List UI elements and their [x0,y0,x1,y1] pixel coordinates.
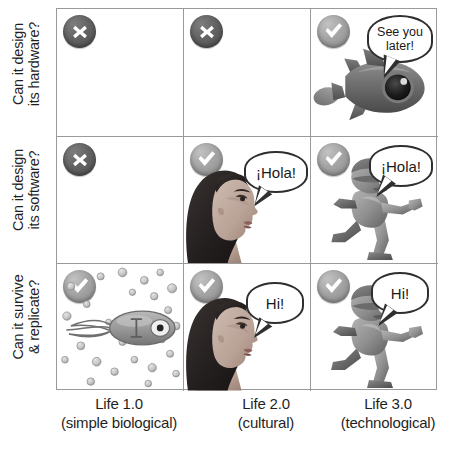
cross-circle-icon [63,15,96,48]
column-label-life2: Life 2.0 (cultural) [204,394,328,432]
capability-matrix-figure: Can it design its hardware? Can it desig… [0,0,454,449]
cell-hardware-life3: See you later! [311,9,438,137]
row-label-survive: Can it survive & replicate? [0,253,52,381]
cross-circle-icon [190,15,223,48]
column-label-life2-line2: (cultural) [204,413,328,432]
speech-bubble-text: See you later! [375,25,425,53]
cell-software-life1 [57,137,184,264]
cell-software-life3: ¡Hola! [311,137,438,264]
column-label-life1: Life 1.0 (simple biological) [36,394,202,432]
cell-hardware-life2 [184,9,311,137]
column-label-life3-line1: Life 3.0 [322,394,454,413]
cell-hardware-life1 [57,9,184,137]
cross-circle-icon [63,143,96,176]
cell-survive-life3: Hi! [311,264,438,391]
row-label-software: Can it design its software? [0,126,52,254]
bacterium-illustration [57,264,183,391]
column-label-life1-line2: (simple biological) [36,413,202,432]
speech-bubble-text: ¡Hola! [256,164,296,181]
row-label-survive-line1: Can it survive [10,274,27,359]
row-label-software-line2: its software? [26,151,43,230]
row-label-hardware-line1: Can it design [10,23,27,105]
cell-survive-life2: Hi! [184,264,311,391]
column-label-life2-line1: Life 2.0 [204,394,328,413]
speech-bubble-text: ¡Hola! [381,158,421,175]
column-label-life1-line1: Life 1.0 [36,394,202,413]
matrix-grid: See you later! [56,8,437,390]
row-label-hardware: Can it design its hardware? [0,0,52,128]
column-label-life3: Life 3.0 (technological) [322,394,454,432]
speech-bubble-hola-robot: ¡Hola! [369,145,433,187]
cell-software-life2: ¡Hola! [184,137,311,264]
speech-bubble-hi-woman: Hi! [246,282,304,324]
speech-bubble-text: Hi! [266,295,284,312]
speech-bubble-hola-woman: ¡Hola! [244,151,308,193]
woman-profile-illustration [184,264,310,391]
speech-bubble-see-you-later: See you later! [367,15,433,63]
row-label-hardware-line2: its hardware? [26,22,43,106]
column-label-life3-line2: (technological) [322,413,454,432]
speech-bubble-text: Hi! [391,285,409,302]
speech-bubble-hi-robot: Hi! [371,272,429,314]
row-label-software-line1: Can it design [10,149,27,231]
cell-survive-life1 [57,264,184,391]
row-label-survive-line2: & replicate? [26,280,43,354]
